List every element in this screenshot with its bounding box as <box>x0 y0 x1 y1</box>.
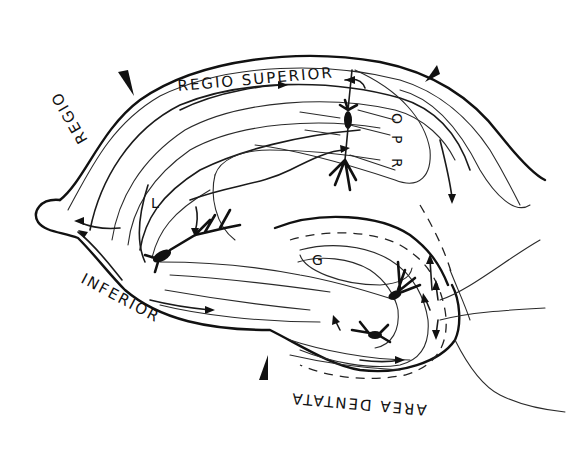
layer-label-l: L <box>151 195 159 211</box>
granule-neuron-upper <box>387 262 420 302</box>
boundary-marker-bottom <box>259 355 268 380</box>
layer-label-g: G <box>312 252 323 268</box>
label-regio-superior: REGIO SUPERIOR <box>177 63 335 95</box>
outer-contour <box>36 56 565 412</box>
layer-label-r: R <box>389 158 405 168</box>
boundary-marker-left <box>118 70 134 96</box>
label-area-dentata: AREA DENTATA <box>290 389 428 419</box>
granule-neuron-lower <box>352 322 390 342</box>
layer-label-o: O <box>389 113 405 124</box>
label-regio: REGIO <box>47 88 91 147</box>
layer-label-p: P <box>389 135 405 143</box>
hippocampus-diagram: REGIO SUPERIOR REGIO INFERIOR AREA DENTA… <box>0 0 573 450</box>
stratum-arcs <box>68 68 520 258</box>
dentate-region <box>275 205 545 378</box>
